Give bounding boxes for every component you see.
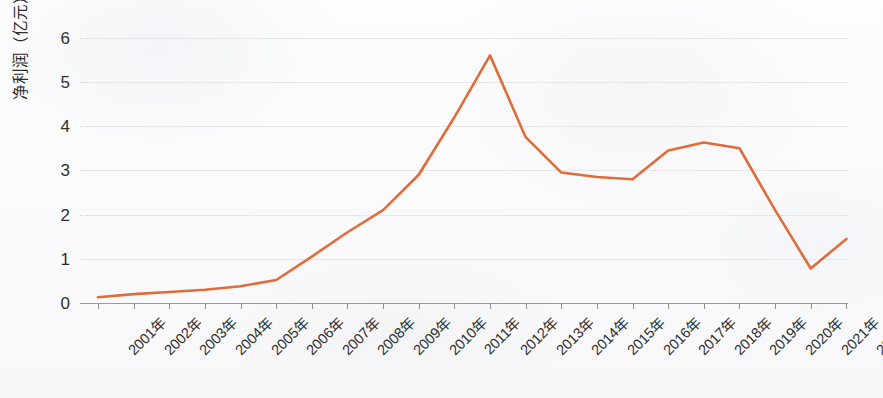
x-tick-label-2021年: 2021年: [835, 312, 882, 359]
x-tick-label-2014年: 2014年: [586, 312, 633, 359]
x-axis-tick-label-group: 2001年2002年2003年2004年2005年2006年2007年2008年…: [0, 0, 883, 398]
x-tick-label-2001年: 2001年: [122, 312, 169, 359]
x-tick-label-2012年: 2012年: [514, 312, 561, 359]
x-tick-label-2010年: 2010年: [443, 312, 490, 359]
x-tick-label-2002年: 2002年: [158, 312, 205, 359]
x-tick-label-2003年: 2003年: [194, 312, 241, 359]
x-tick-label-2018年: 2018年: [728, 312, 775, 359]
x-tick-label-2004年: 2004年: [229, 312, 276, 359]
x-tick-label-2017年: 2017年: [692, 312, 739, 359]
x-tick-label-2011年: 2011年: [478, 312, 524, 358]
x-tick-label-2015年: 2015年: [621, 312, 668, 359]
x-tick-label-2006年: 2006年: [300, 312, 347, 359]
x-tick-label-2016年: 2016年: [657, 312, 704, 359]
x-tick-label-2005年: 2005年: [265, 312, 312, 359]
x-tick-label-2013年: 2013年: [550, 312, 597, 359]
x-tick-label-2019年: 2019年: [764, 312, 811, 359]
x-tick-label-2009年: 2009年: [407, 312, 454, 359]
x-tick-label-2008年: 2008年: [372, 312, 419, 359]
x-tick-label-2007年: 2007年: [336, 312, 383, 359]
x-tick-label-2020年: 2020年: [799, 312, 846, 359]
net-profit-line-chart: 净利润（亿元） 0123456 2001年2002年2003年2004年2005…: [0, 0, 883, 398]
